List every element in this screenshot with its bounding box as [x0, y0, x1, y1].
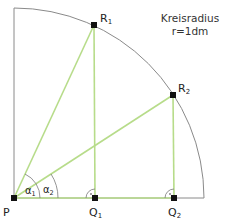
label-Q2: Q2	[168, 206, 181, 220]
label-Q1: Q1	[89, 206, 102, 220]
right-angle-dot-Q1	[90, 193, 92, 195]
point-R2	[170, 92, 176, 98]
label-alpha2: α2	[43, 184, 54, 197]
label-R2: R2	[178, 82, 190, 96]
right-angle-dot-Q2	[169, 193, 171, 195]
line-R2-Q2	[173, 95, 174, 198]
point-Q1	[92, 195, 98, 201]
radius-note-value: r=1dm	[150, 25, 230, 38]
construction-lines	[14, 25, 174, 198]
label-R1: R1	[100, 12, 112, 26]
label-alpha1: α1	[25, 185, 36, 198]
point-P	[11, 195, 17, 201]
point-Q2	[171, 195, 177, 201]
label-P: P	[3, 206, 10, 219]
radius-note: Kreisradius r=1dm	[150, 12, 230, 38]
radius-note-title: Kreisradius	[150, 12, 230, 25]
line-R1-Q1	[94, 25, 95, 198]
point-R1	[91, 22, 97, 28]
